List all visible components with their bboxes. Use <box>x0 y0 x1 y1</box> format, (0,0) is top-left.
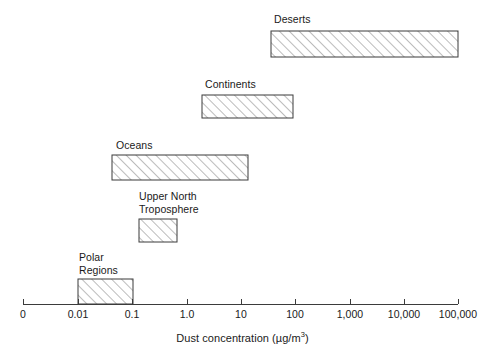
bars-group <box>78 31 458 304</box>
bar-label-line: Regions <box>79 264 118 277</box>
x-axis-tick-label: 0.01 <box>68 308 89 320</box>
bar-label: Deserts <box>274 13 311 26</box>
bar-label-line: Polar <box>79 251 118 264</box>
x-axis-tick-label: 100 <box>286 308 304 320</box>
x-axis-tick-label: 0 <box>20 308 26 320</box>
bar-label: Continents <box>205 78 256 91</box>
bar-label-line: Deserts <box>274 13 311 26</box>
range-bar <box>139 219 177 242</box>
x-axis-title-base: Dust concentration (µg/m <box>176 332 300 344</box>
x-axis-tick-label: 10 <box>235 308 247 320</box>
x-axis-tick-label: 0.1 <box>125 308 140 320</box>
chart-plot-area <box>0 0 485 358</box>
bar-label-line: Troposphere <box>139 203 199 216</box>
x-axis-title: Dust concentration (µg/m3) <box>0 332 485 344</box>
x-axis-title-close: ) <box>305 332 309 344</box>
x-axis-tick-label: 1.0 <box>180 308 195 320</box>
bar-label-line: Oceans <box>116 139 153 152</box>
bar-label-line: Upper North <box>139 190 199 203</box>
x-axis-tick-label: 1,000 <box>337 308 364 320</box>
range-bar <box>202 95 293 118</box>
dust-concentration-chart: DesertsContinentsOceansUpper NorthTropos… <box>0 0 485 358</box>
bar-label-line: Continents <box>205 78 256 91</box>
range-bar <box>271 31 458 57</box>
bar-label: Upper NorthTroposphere <box>139 190 199 215</box>
range-bar <box>112 155 248 180</box>
range-bar <box>78 279 133 304</box>
bar-label: Oceans <box>116 139 153 152</box>
x-axis-tick-label: 10,000 <box>388 308 420 320</box>
bar-label: PolarRegions <box>79 251 118 276</box>
x-axis-tick-label: 100,000 <box>439 308 477 320</box>
